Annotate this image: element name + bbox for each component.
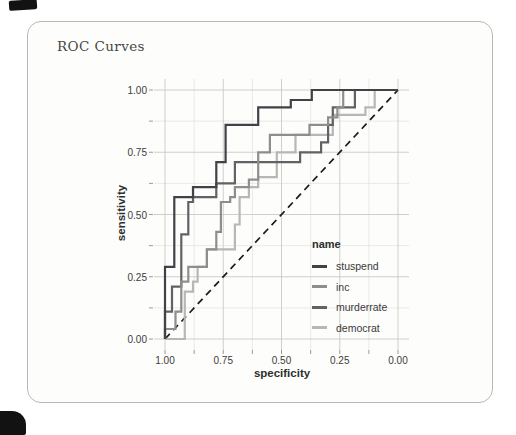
legend-label-democrat: democrat bbox=[336, 322, 380, 334]
legend-label-murderrate: murderrate bbox=[336, 301, 387, 313]
legend-title: name bbox=[312, 238, 387, 250]
legend-entry-stuspend: stuspend bbox=[312, 256, 387, 277]
x-tick-label: 0.25 bbox=[322, 355, 358, 366]
x-tick-label: 1.00 bbox=[147, 355, 183, 366]
y-tick-label: 0.25 bbox=[115, 272, 147, 283]
y-tick-label: 1.00 bbox=[115, 85, 147, 96]
legend-swatch-democrat bbox=[312, 326, 327, 329]
legend: name stuspendincmurderratedemocrat bbox=[312, 238, 387, 338]
legend-swatch-inc bbox=[312, 285, 327, 288]
x-tick-label: 0.50 bbox=[264, 355, 300, 366]
y-tick-label: 0.00 bbox=[115, 334, 147, 345]
legend-entry-inc: inc bbox=[312, 277, 387, 298]
legend-label-stuspend: stuspend bbox=[336, 260, 379, 272]
legend-entry-democrat: democrat bbox=[312, 318, 387, 339]
y-axis-label: sensitivity bbox=[115, 185, 127, 241]
legend-swatch-stuspend bbox=[312, 265, 327, 268]
x-tick-label: 0.75 bbox=[205, 355, 241, 366]
legend-entry-murderrate: murderrate bbox=[312, 297, 387, 318]
legend-swatch-murderrate bbox=[312, 306, 327, 309]
y-tick-label: 0.75 bbox=[115, 147, 147, 158]
legend-label-inc: inc bbox=[336, 281, 349, 293]
x-axis-label: specificity bbox=[231, 367, 333, 379]
x-tick-label: 0.00 bbox=[380, 355, 416, 366]
